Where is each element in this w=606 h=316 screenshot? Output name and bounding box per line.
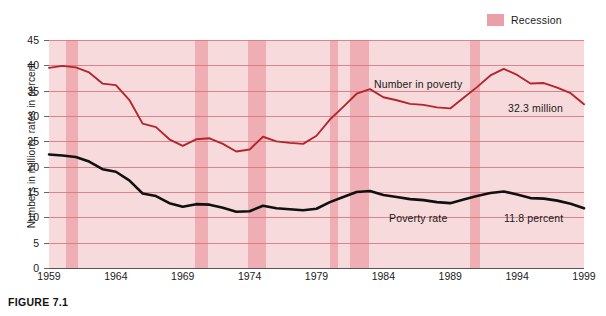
data-series: [49, 40, 584, 268]
y-axis-tick-label: 15: [27, 187, 39, 198]
x-axis-tick-label: 1984: [372, 271, 395, 282]
x-axis-tick-label: 1994: [505, 271, 528, 282]
annotation-number-end-value: 32.3 million: [508, 102, 563, 114]
x-axis-line: [49, 268, 584, 269]
x-axis-tick-label: 1999: [572, 271, 595, 282]
x-axis-tick-label: 1959: [37, 271, 60, 282]
figure-caption: FIGURE 7.1: [8, 296, 68, 308]
x-axis-tick-label: 1979: [305, 271, 328, 282]
chart-legend: Recession: [487, 14, 562, 26]
y-axis-tick-label: 20: [27, 161, 39, 172]
figure-container: Recession Numbers in millions, rates in …: [0, 0, 606, 316]
annotation-poverty-rate: Poverty rate: [389, 212, 447, 224]
recession-swatch-icon: [487, 14, 504, 26]
y-axis-ticks: 051015202530354045: [0, 40, 44, 268]
series-line: [49, 155, 584, 212]
y-axis-tick-label: 35: [27, 85, 39, 96]
annotation-number-in-poverty: Number in poverty: [374, 78, 462, 90]
x-axis-tick-label: 1969: [171, 271, 194, 282]
y-axis-tick-label: 40: [27, 60, 39, 71]
y-axis-tick-label: 25: [27, 136, 39, 147]
plot-area: Number in poverty 32.3 million Poverty r…: [49, 40, 584, 268]
x-axis-tick-label: 1989: [439, 271, 462, 282]
x-axis-ticks: 195919641969197419791984198919941999: [49, 271, 584, 287]
series-line: [49, 66, 584, 152]
x-axis-tick-label: 1974: [238, 271, 261, 282]
x-axis-tick-label: 1964: [104, 271, 127, 282]
legend-label-recession: Recession: [511, 14, 562, 26]
annotation-rate-end-value: 11.8 percent: [504, 212, 563, 224]
y-axis-tick-label: 10: [27, 212, 39, 223]
y-axis-tick-label: 30: [27, 111, 39, 122]
y-axis-tick-label: 45: [27, 35, 39, 46]
y-axis-tick-label: 5: [33, 237, 39, 248]
